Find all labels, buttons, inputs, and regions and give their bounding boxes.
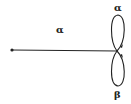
upper-loop-label-alpha: α xyxy=(114,3,122,13)
lower-loop-label-beta: β xyxy=(114,90,121,100)
main-edge xyxy=(12,50,117,51)
edge-label-alpha: α xyxy=(56,25,64,35)
diagram-canvas xyxy=(0,0,131,104)
